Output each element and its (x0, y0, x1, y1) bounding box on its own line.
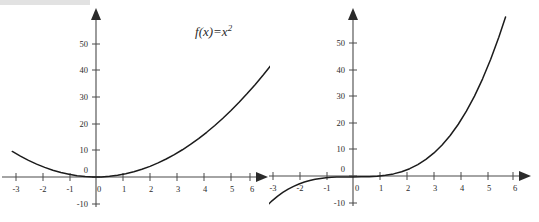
label-fx-var: (x) (199, 24, 213, 39)
x-label-1: 1 (379, 183, 383, 193)
y-label-neg10: -10 (77, 199, 88, 209)
x-label-neg1: -1 (66, 184, 73, 194)
y-label-0: 0 (341, 164, 345, 174)
y-label-50: 50 (337, 38, 346, 48)
x-axis-arrowhead (256, 172, 268, 182)
x-label-2: 2 (149, 184, 153, 194)
plot-panel-Fx: 50 40 30 20 10 0 -10 -3 (269, 0, 539, 222)
x-tick-labels: -3 -2 -1 0 1 2 3 4 5 6 (12, 184, 254, 194)
x-label-3: 3 (176, 184, 180, 194)
figure-page: 50 40 30 20 10 0 -10 -3 (0, 0, 539, 222)
y-label-50: 50 (80, 39, 89, 49)
y-label-0: 0 (84, 165, 88, 175)
x-label-3: 3 (433, 183, 437, 193)
y-axis-arrowhead (91, 8, 101, 20)
x-label-6: 6 (250, 184, 254, 194)
y-label-20: 20 (337, 118, 346, 128)
x-label-neg3: -3 (12, 184, 19, 194)
y-label-neg10: -10 (334, 198, 345, 208)
plot-Fx-svg: 50 40 30 20 10 0 -10 -3 (269, 0, 539, 222)
x-label-neg1: -1 (323, 183, 330, 193)
label-fx-eq: = (213, 24, 222, 39)
x-label-6: 6 (513, 183, 517, 193)
x-label-5: 5 (487, 183, 491, 193)
x-label-1: 1 (122, 184, 126, 194)
x-label-5: 5 (230, 184, 234, 194)
y-axis-arrowhead (348, 8, 358, 20)
curve-F-of-x (269, 17, 506, 206)
x-label-2: 2 (406, 183, 410, 193)
y-tick-labels: 50 40 30 20 10 0 -10 (334, 38, 345, 208)
y-label-40: 40 (337, 65, 346, 75)
x-label-neg3: -3 (269, 183, 276, 193)
y-label-10: 10 (80, 145, 89, 155)
curve-f-of-x (12, 50, 270, 177)
x-label-neg2: -2 (39, 184, 46, 194)
x-label-0: 0 (355, 183, 359, 193)
label-f-of-x: f(x)=x2 (195, 24, 232, 40)
y-label-20: 20 (80, 119, 89, 129)
x-tick-labels: -3 -2 -1 0 1 2 3 4 5 6 (269, 183, 517, 193)
x-label-0: 0 (97, 184, 101, 194)
x-axis-arrowhead (519, 171, 531, 181)
y-label-30: 30 (80, 92, 89, 102)
label-fx-exponent: 2 (228, 23, 232, 33)
y-label-30: 30 (337, 91, 346, 101)
x-label-4: 4 (460, 183, 465, 193)
y-tick-labels: 50 40 30 20 10 0 -10 (77, 39, 88, 209)
y-label-10: 10 (337, 144, 346, 154)
y-label-40: 40 (80, 65, 89, 75)
plot-panel-fx: 50 40 30 20 10 0 -10 -3 (0, 0, 270, 222)
x-label-4: 4 (203, 184, 208, 194)
